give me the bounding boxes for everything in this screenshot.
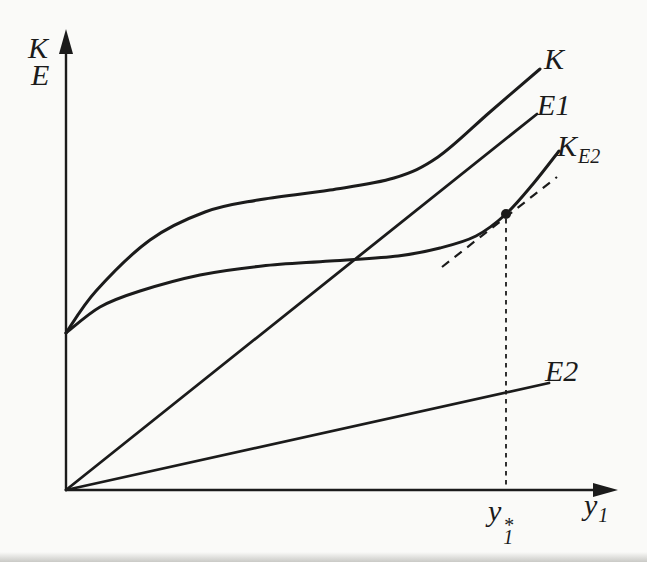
curve-label-KE2-main: K bbox=[557, 129, 577, 162]
x-star-label-scripts: *1 bbox=[503, 519, 513, 544]
growth-model-diagram: K E K E1 KE2 E2 y1 y*1 bbox=[0, 0, 647, 562]
x-axis-label-main: y bbox=[584, 488, 597, 521]
plot-canvas bbox=[0, 0, 647, 562]
x-axis-label: y1 bbox=[584, 490, 608, 525]
curve-E1 bbox=[66, 114, 537, 490]
curve-KE2 bbox=[66, 151, 559, 333]
curve-label-KE2-subscript: E2 bbox=[578, 145, 600, 167]
curve-label-E1: E1 bbox=[537, 90, 570, 120]
curve-label-E2: E2 bbox=[545, 356, 578, 386]
dashed-tangent-at-y1star bbox=[442, 177, 557, 267]
curve-E2 bbox=[66, 383, 549, 490]
tangency-point bbox=[501, 209, 511, 219]
curve-label-K: K bbox=[544, 44, 564, 74]
x-star-label-subscript: 1 bbox=[503, 531, 513, 543]
y_axis-arrowhead-icon bbox=[59, 29, 73, 54]
x-star-label: y*1 bbox=[488, 496, 513, 544]
x-star-label-main: y bbox=[488, 494, 501, 527]
y-axis-label-e: E bbox=[31, 60, 49, 90]
curve-label-KE2: KE2 bbox=[557, 131, 600, 166]
x-axis-label-subscript: 1 bbox=[598, 504, 608, 526]
